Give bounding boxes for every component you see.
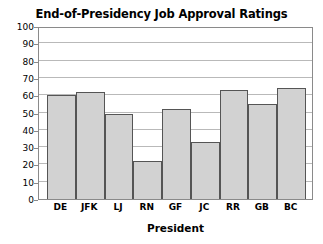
y-tick-label: 90 [0, 40, 34, 49]
x-tick-label: GB [255, 203, 269, 212]
bar [220, 90, 249, 199]
y-tick-label: 100 [0, 23, 34, 32]
y-tick-label: 40 [0, 126, 34, 135]
bar [162, 109, 191, 199]
x-tick-label: BC [284, 203, 297, 212]
x-axis: DEJFKLJRNGFJCRRGBBC [38, 203, 313, 217]
bar [191, 142, 220, 199]
x-tick-label: RN [139, 203, 153, 212]
y-tick-mark [34, 200, 38, 201]
bar [277, 88, 306, 199]
y-tick-label: 50 [0, 109, 34, 118]
x-tick-label: JFK [81, 203, 97, 212]
bar [76, 92, 105, 199]
bar [248, 104, 277, 199]
y-tick-label: 70 [0, 74, 34, 83]
bar [105, 114, 134, 199]
x-axis-title: President [38, 222, 313, 234]
x-tick-label: RR [226, 203, 240, 212]
y-tick-label: 0 [0, 196, 34, 205]
bar-chart-figure: End-of-Presidency Job Approval Ratings 0… [0, 0, 323, 244]
bars-series [39, 28, 312, 199]
y-tick-label: 10 [0, 178, 34, 187]
bar [133, 161, 162, 199]
y-axis: 0102030405060708090100 [0, 27, 34, 200]
x-tick-label: JC [199, 203, 209, 212]
bar [47, 95, 76, 199]
plot-area [38, 27, 313, 200]
y-tick-label: 80 [0, 57, 34, 66]
x-tick-label: GF [169, 203, 183, 212]
y-tick-label: 60 [0, 92, 34, 101]
x-tick-label: DE [54, 203, 68, 212]
x-tick-label: LJ [113, 203, 122, 212]
y-tick-label: 30 [0, 144, 34, 153]
chart-title: End-of-Presidency Job Approval Ratings [0, 7, 323, 21]
y-tick-label: 20 [0, 161, 34, 170]
